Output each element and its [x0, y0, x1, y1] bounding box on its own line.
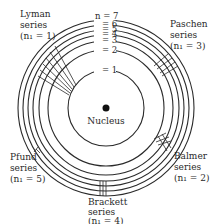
svg-text:(n₁ = 2): (n₁ = 2) [174, 173, 209, 183]
svg-text:series: series [174, 162, 201, 172]
svg-text:Brackett: Brackett [88, 197, 128, 207]
svg-text:(n₁ = 4): (n₁ = 4) [88, 216, 123, 224]
svg-text:series: series [10, 163, 37, 173]
brackett-label: Brackett series (n₁ = 4) [88, 197, 128, 224]
paschen-label: Paschen series (n₁ = 3) [170, 19, 208, 51]
level-label-1: = 1 [102, 65, 117, 75]
nucleus-label: Nucleus [87, 116, 125, 126]
svg-text:Paschen: Paschen [170, 19, 208, 29]
svg-text:(n₁ = 3): (n₁ = 3) [170, 41, 205, 51]
svg-text:(n₁ = 5): (n₁ = 5) [10, 174, 45, 184]
level-label-2: = 2 [102, 45, 117, 55]
balmer-label: Balmer series (n₁ = 2) [174, 151, 209, 183]
svg-text:series: series [170, 30, 197, 40]
nucleus-dot [103, 105, 110, 112]
pfund-label: Pfund series (n₁ = 5) [10, 152, 45, 184]
svg-text:(n₁ = 1): (n₁ = 1) [20, 31, 55, 41]
brackett-transitions [100, 181, 106, 196]
svg-text:series: series [20, 20, 47, 30]
bohr-model-diagram: n = 7 = 6 = 5 = 4 = 3 = 2 = 1 Nucleus Ly… [0, 0, 215, 224]
svg-text:Pfund: Pfund [10, 152, 37, 162]
lyman-label: Lyman series (n₁ = 1) [20, 9, 55, 41]
svg-text:Balmer: Balmer [174, 151, 208, 161]
svg-text:Lyman: Lyman [20, 9, 51, 19]
level-label-3: = 3 [102, 35, 117, 45]
